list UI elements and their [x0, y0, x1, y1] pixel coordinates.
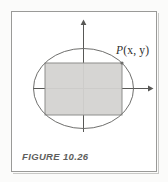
- figure-caption: FIGURE 10.26: [22, 151, 89, 162]
- point-p-marker: [120, 61, 123, 64]
- point-p-label: P(x, y): [116, 44, 149, 56]
- inscribed-rectangle: [45, 63, 122, 115]
- x-axis-arrowhead: [148, 86, 154, 92]
- figure-container: P(x, y) FIGURE 10.26: [0, 0, 168, 182]
- point-p-coordinates: (x, y): [123, 44, 149, 56]
- y-axis-arrowhead: [81, 20, 87, 26]
